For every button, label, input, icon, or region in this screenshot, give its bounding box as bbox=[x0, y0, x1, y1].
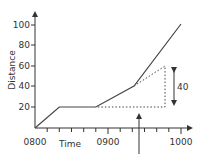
journey-line bbox=[35, 24, 181, 128]
distance-time-chart: 20 40 60 80 100 0800 0900 1000 Time Dist… bbox=[0, 0, 199, 154]
x-tick-label: 0800 bbox=[24, 137, 47, 147]
y-axis-label: Distance bbox=[7, 50, 17, 90]
y-tick-label: 40 bbox=[19, 81, 31, 91]
y-ticks bbox=[31, 25, 35, 107]
x-ticks bbox=[47, 128, 181, 134]
difference-label: 40 bbox=[177, 82, 189, 92]
x-tick-label: 1000 bbox=[170, 137, 193, 147]
y-tick-label: 80 bbox=[19, 40, 31, 50]
y-tick-label: 100 bbox=[13, 20, 30, 30]
x-axis-label: Time bbox=[58, 139, 81, 149]
y-tick-label: 60 bbox=[19, 61, 31, 71]
y-tick-label: 20 bbox=[19, 102, 31, 112]
x-tick-label: 0900 bbox=[97, 137, 120, 147]
